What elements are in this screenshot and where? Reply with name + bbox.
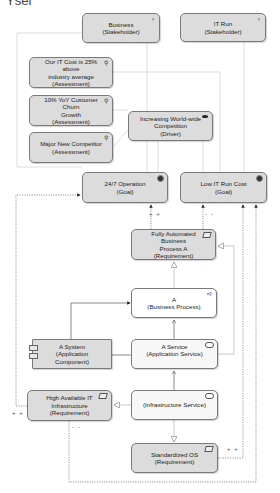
infra-service-node[interactable]: (Infrastructure Service) (131, 390, 218, 420)
multiplicity-plus: + + (12, 410, 24, 416)
goal-lowcost-node[interactable]: Low IT Run Cost(Goal) (180, 172, 267, 203)
assessment-icon: ⚲ (103, 98, 109, 104)
node-name: Fully Automated Business Process A (151, 230, 195, 252)
service-icon (205, 393, 214, 399)
assessment-competitor-node[interactable]: ⚲ Major New Competitor(Assessment) (29, 132, 113, 163)
node-type: (Requirement) (155, 458, 195, 465)
goal-operation-node[interactable]: 24/7 Operation(Goal) (82, 172, 168, 203)
app-service-node[interactable]: A Service(Application Service) (131, 339, 218, 369)
node-type: (Application Component) (55, 350, 89, 364)
req-os-node[interactable]: Standardized OS(Requirement) (131, 443, 218, 473)
node-name: IT Run (214, 20, 232, 27)
node-name: Low IT Run Cost (201, 180, 247, 187)
driver-icon (202, 115, 208, 118)
node-type: (Stakeholder) (204, 28, 241, 35)
stakeholder-icon: ♀ (256, 16, 262, 22)
assessment-itcost-node[interactable]: ⚲ Our IT Cost is 25% above industry aver… (29, 57, 113, 88)
node-name: Major New Competitor (40, 140, 102, 147)
requirement-icon (98, 393, 108, 399)
node-type: (Assessment) (52, 148, 90, 155)
stakeholder-icon: ♀ (150, 16, 156, 22)
itrun-stakeholder-node[interactable]: ♀ IT Run(Stakeholder) (180, 13, 266, 42)
node-name: Business (108, 21, 133, 28)
node-type: (Business Process) (147, 303, 200, 310)
app-component-node[interactable]: A System(Application Component) (32, 339, 112, 369)
driver-competition-node[interactable]: Increasing World-wide Competition(Driver… (128, 111, 213, 141)
component-icon (29, 353, 38, 359)
multiplicity-plus: + + (149, 211, 161, 217)
business-stakeholder-node[interactable]: ♀ Business(Stakeholder) (82, 13, 160, 43)
multiplicity-plus: + + (227, 446, 239, 452)
node-type: (Goal) (116, 188, 133, 195)
node-type: (Infrastructure Service) (143, 401, 206, 408)
requirement-icon (204, 446, 214, 452)
node-type: (Goal) (215, 188, 232, 195)
process-icon: ➪ (207, 291, 213, 297)
node-name: Increasing World-wide Competition (140, 115, 201, 129)
assessment-churn-node[interactable]: ⚲ 10% YoY Customer Churn Growth(Assessme… (29, 95, 113, 126)
assessment-icon: ⚲ (103, 135, 109, 141)
node-type: (Assessment) (52, 80, 90, 87)
business-process-node[interactable]: ➪ A(Business Process) (131, 288, 217, 318)
service-icon (205, 342, 214, 348)
node-type: (Application Service) (146, 350, 203, 357)
node-type: (Requirement) (50, 409, 90, 416)
node-type: (Stakeholder) (102, 28, 139, 35)
goal-icon (157, 175, 164, 182)
node-type: (Assessment) (52, 118, 90, 125)
req-automated-node[interactable]: Fully Automated Business Process A(Requi… (131, 229, 216, 260)
node-name: High Available IT Infrastructure (46, 394, 92, 408)
node-name: Our IT Cost is 25% above industry averag… (45, 58, 97, 80)
node-name: 10% YoY Customer Churn Growth (44, 96, 98, 118)
req-highavail-node[interactable]: High Available IT Infrastructure(Require… (27, 390, 112, 421)
multiplicity-minus: - - (72, 424, 81, 430)
node-name: A (172, 296, 176, 303)
node-name: A Service (161, 343, 187, 350)
goal-icon (256, 175, 263, 182)
node-name: A System (59, 343, 85, 350)
assessment-icon: ⚲ (103, 60, 109, 66)
component-icon (29, 345, 38, 351)
node-name: Standardized OS (151, 451, 198, 458)
requirement-icon (202, 232, 212, 238)
node-name: 24/7 Operation (105, 180, 146, 187)
multiplicity-minus: - - (205, 211, 214, 217)
node-type: (Driver) (160, 130, 181, 137)
node-type: (Requirement) (154, 252, 194, 259)
